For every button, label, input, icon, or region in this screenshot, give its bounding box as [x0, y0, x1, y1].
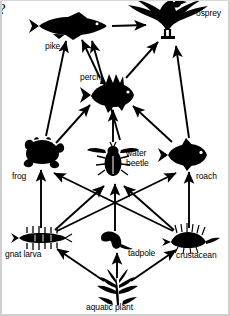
question-text: ners?	[0, 1, 6, 18]
label-perch: perch	[80, 73, 101, 83]
gnat-larva-icon	[11, 226, 72, 250]
arrow-perch-to-osprey	[126, 42, 158, 78]
food-web-canvas	[0, 0, 230, 316]
pike-icon	[29, 12, 107, 40]
arrow-plant-to-gnat	[57, 249, 104, 281]
tadpole-icon	[101, 232, 133, 250]
label-pike: pike	[45, 42, 60, 52]
arrow-roach-to-perch	[133, 106, 172, 142]
arrow-crustacean-to-frog	[54, 173, 173, 231]
label-gnat-larva: gnat larva	[5, 250, 41, 260]
arrow-frog-to-pike	[46, 41, 66, 136]
food-web-diagram: ners? osprey pike perch frog water beetl…	[0, 0, 230, 316]
label-crustacean: crustacean	[176, 251, 217, 261]
osprey-icon	[128, 0, 208, 39]
arrow-frog-to-perch	[56, 105, 90, 143]
label-osprey: osprey	[196, 9, 221, 19]
label-tadpole: tadpole	[128, 249, 155, 259]
arrow-crustacean-to-beetle	[124, 186, 174, 230]
label-water-beetle: water beetle	[126, 149, 166, 168]
label-roach: roach	[196, 172, 217, 182]
arrow-pike-to-osprey	[112, 25, 146, 26]
label-frog: frog	[12, 172, 26, 182]
arrow-roach-to-osprey	[176, 46, 189, 138]
arrow-gnat-to-roach	[57, 173, 176, 231]
label-aquatic-plant: aquatic plant	[86, 303, 133, 313]
arrow-gnat-to-water-beetle	[55, 186, 104, 230]
